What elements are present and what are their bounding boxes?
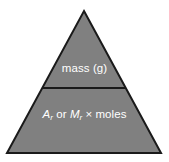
numerator-text: mass (g) <box>62 62 108 74</box>
triangle-graphic <box>0 0 169 162</box>
triangle-shape <box>7 11 161 153</box>
conjunction-text: or <box>56 108 66 120</box>
formula-triangle-diagram: mass (g) Ar or Mr ×moles <box>0 0 169 162</box>
multiplication-operator: × <box>86 108 93 120</box>
denominator-label: Ar or Mr ×moles <box>0 108 169 124</box>
relative-molecular-mass-symbol: M <box>70 108 80 120</box>
relative-molecular-mass-subscript: r <box>80 113 83 122</box>
moles-text: moles <box>95 108 126 120</box>
numerator-label: mass (g) <box>0 62 169 75</box>
relative-atomic-mass-subscript: r <box>50 113 53 122</box>
